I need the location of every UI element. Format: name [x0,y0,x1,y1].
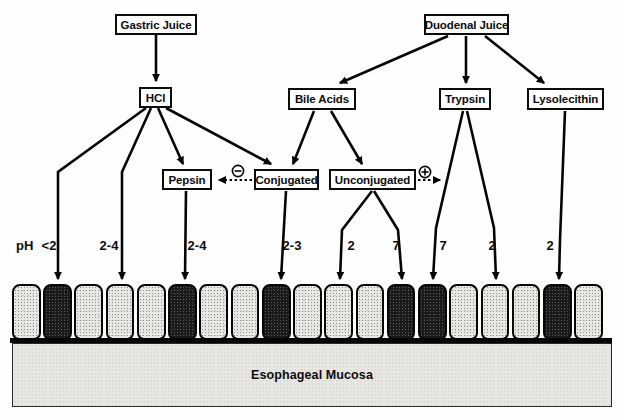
mucosal-cell-4-healthy [106,284,135,340]
edge-lysolecithin-down [559,111,565,279]
mucosal-cell-14-damaged [418,284,447,340]
mucosal-cell-16-healthy [481,284,510,340]
mucosal-cell-10-healthy [293,284,322,340]
mucosal-cell-9-damaged [262,284,291,340]
edge-pepsin-down [185,191,186,279]
mucosal-cell-13-damaged [387,284,416,340]
mucosal-cell-19-healthy [574,284,603,340]
edge-hcl-ph-lt2 [58,108,146,279]
edge-hcl-to-conjugated [166,108,271,164]
node-bile-acids: Bile Acids [288,88,356,110]
mucosal-cell-1-healthy [12,284,41,340]
mucosal-cell-6-damaged [168,284,197,340]
edge-hcl-ph-24 [122,108,151,279]
mucosal-cell-17-healthy [512,284,541,340]
mucosal-cell-2-damaged [43,284,72,340]
mucosal-cell-3-healthy [74,284,103,340]
minus-circle-icon [232,165,243,176]
ph-value-hcl-2: 2-4 [100,238,119,253]
mucosal-cell-5-healthy [137,284,166,340]
edge-bileacids-to-unconjugated [331,111,362,164]
edge-bileacids-to-conjugated [293,111,314,164]
mucosal-cell-11-healthy [324,284,353,340]
esophageal-mucosa-block: Esophageal Mucosa [12,343,612,407]
mucosal-cell-15-healthy [449,284,478,340]
node-conjugated: Conjugated [254,169,319,190]
edge-duodenal-to-bileacids [340,36,448,83]
ph-value-trypsin-7: 7 [439,238,446,253]
edge-trypsin-ph7 [433,111,463,279]
node-gastric-juice: Gastric Juice [115,14,197,35]
mucosal-cell-12-healthy [356,284,385,340]
edge-unconjugated-ph7 [374,191,402,279]
ph-axis-label: pH [16,238,33,253]
edge-trypsin-ph2 [467,111,496,279]
node-unconjugated: Unconjugated [329,169,416,190]
node-lysolecithin: Lysolecithin [527,88,604,110]
node-duodenal-juice: Duodenal Juice [424,14,509,35]
edge-unconjugated-ph2 [340,191,372,279]
ph-value-trypsin-2: 2 [488,238,495,253]
plus-circle-icon [419,166,430,177]
node-trypsin: Trypsin [439,88,491,110]
node-hcl: HCl [139,87,172,108]
mucosa-label: Esophageal Mucosa [251,368,373,382]
ph-value-hcl-1: <2 [42,238,57,253]
edge-duodenal-to-lysolecithin [485,36,544,83]
mucosal-cell-8-healthy [231,284,260,340]
esophageal-mucosa-injury-diagram: Gastric Juice Duodenal Juice HCl Bile Ac… [0,0,619,418]
edge-conjugated-down [281,191,286,279]
node-pepsin: Pepsin [162,169,212,190]
ph-value-unconjugated-2: 2 [347,238,354,253]
ph-value-pepsin: 2-4 [188,238,207,253]
ph-value-unconjugated-7: 7 [392,238,399,253]
ph-value-lysolecithin: 2 [546,238,553,253]
epithelial-cell-row [12,284,603,340]
ph-value-conjugated: 2-3 [283,238,302,253]
mucosal-cell-7-healthy [199,284,228,340]
mucosal-cell-18-damaged [543,284,572,340]
